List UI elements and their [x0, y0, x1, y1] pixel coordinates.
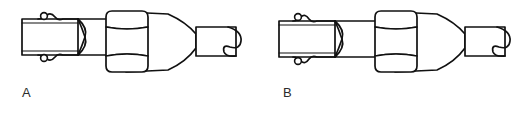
- figure-caption-a: A: [22, 86, 31, 99]
- shaft: [22, 19, 78, 55]
- hex-nut-band-bottom: [106, 54, 148, 72]
- upper-nub: [295, 14, 302, 21]
- hex-nut: [375, 11, 417, 72]
- shaft: [279, 21, 335, 57]
- instrument-drawing-b: [261, 0, 523, 100]
- figure-caption-b: B: [283, 86, 292, 99]
- tip-body: [465, 27, 505, 56]
- lower-nub: [41, 55, 48, 62]
- figure-panel-b: B: [261, 0, 523, 123]
- instrument-drawing-a: [0, 0, 262, 100]
- hex-nut-band-top: [375, 11, 417, 29]
- hex-nut-band-middle: [375, 27, 417, 56]
- tip-body: [196, 27, 236, 56]
- lower-nub: [295, 58, 302, 65]
- figure-board: A: [0, 0, 523, 123]
- hex-nut-band-middle: [106, 27, 148, 56]
- hex-nut-band-bottom: [375, 54, 417, 72]
- figure-panel-a: A: [0, 0, 262, 123]
- upper-nub: [41, 13, 48, 20]
- hex-nut: [106, 11, 148, 72]
- hex-nut-band-top: [106, 11, 148, 29]
